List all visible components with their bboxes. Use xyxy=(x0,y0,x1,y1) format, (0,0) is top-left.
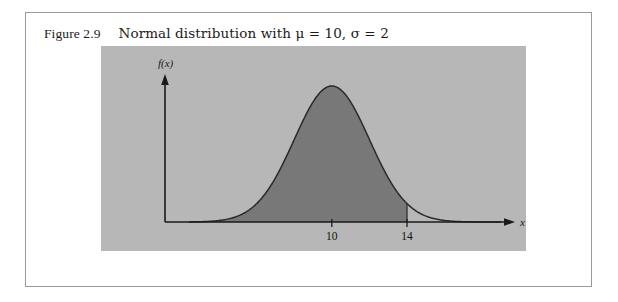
y-axis-arrow-icon xyxy=(161,74,169,85)
x-axis-label: x xyxy=(519,216,525,228)
x-tick-label-10: 10 xyxy=(326,230,338,242)
figure-caption: Figure 2.9Normal distribution with μ = 1… xyxy=(44,25,389,42)
y-axis xyxy=(161,74,169,222)
normal-distribution-chart: 10 14 f(x) x xyxy=(101,46,526,251)
figure-card: Figure 2.9Normal distribution with μ = 1… xyxy=(25,12,592,287)
figure-number: Figure 2.9 xyxy=(44,26,101,41)
chart-panel: 10 14 f(x) x xyxy=(101,46,526,251)
figure-caption-text: Normal distribution with μ = 10, σ = 2 xyxy=(119,25,389,41)
x-tick-label-14: 14 xyxy=(401,230,413,242)
shaded-area-under-curve xyxy=(189,86,407,222)
x-axis-arrow-icon xyxy=(504,218,515,226)
y-axis-label: f(x) xyxy=(158,57,174,70)
